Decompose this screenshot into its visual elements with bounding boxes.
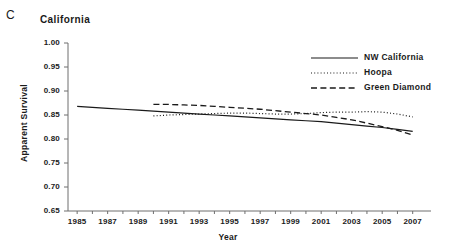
legend-item-label: NW California [364,52,424,62]
legend-item-label: Green Diamond [364,82,431,92]
y-tick-label: 0.80 [30,134,60,143]
x-tick-label: 1989 [121,217,155,226]
y-tick-label: 1.00 [30,38,60,47]
series-line-1 [153,112,412,117]
y-tick-label: 0.90 [30,86,60,95]
legend-item-label: Hoopa [364,67,392,77]
plot-area [0,0,456,251]
x-tick-label: 1985 [60,217,94,226]
x-tick-label: 2007 [396,217,430,226]
y-tick-label: 0.95 [30,62,60,71]
x-tick-label: 1993 [182,217,216,226]
y-tick-label: 0.75 [30,158,60,167]
x-tick-label: 2003 [335,217,369,226]
x-tick-label: 2001 [304,217,338,226]
y-tick-label: 0.65 [30,206,60,215]
data-series [77,104,413,135]
x-tick-label: 1995 [213,217,247,226]
x-tick-label: 1987 [91,217,125,226]
x-tick-label: 1991 [152,217,186,226]
x-tick-label: 2005 [365,217,399,226]
legend-swatches [311,58,358,88]
figure-panel-c: C California Apparent Survival Year 1.00… [0,0,456,251]
series-line-0 [77,106,413,131]
y-tick-label: 0.85 [30,110,60,119]
x-tick-label: 1997 [243,217,277,226]
y-tick-label: 0.70 [30,182,60,191]
x-tick-label: 1999 [274,217,308,226]
